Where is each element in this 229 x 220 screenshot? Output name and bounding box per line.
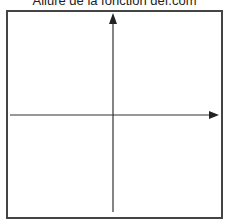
x-axis-arrow-icon bbox=[209, 111, 219, 119]
coordinate-axes bbox=[0, 0, 229, 220]
x-axis bbox=[10, 111, 219, 119]
y-axis-arrow-icon bbox=[109, 13, 117, 24]
y-axis bbox=[109, 13, 117, 212]
